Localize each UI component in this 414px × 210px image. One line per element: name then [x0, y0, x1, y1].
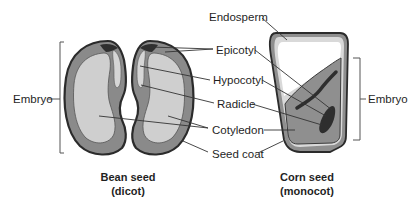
- label-radicle: Radicle: [217, 98, 255, 110]
- bean-right-cotyledon: [143, 53, 185, 143]
- label-seed-coat: Seed coat: [212, 148, 265, 160]
- leader-seed-coat-corn: [258, 141, 283, 153]
- center-labels: Endosperm Epicotyl Hypocotyl Radicle Cot…: [209, 11, 268, 160]
- right-embryo-bracket: [353, 58, 360, 140]
- bean-left-cotyledon: [74, 53, 116, 143]
- label-endosperm: Endosperm: [209, 11, 268, 23]
- left-embryo-label: Embryo: [13, 93, 53, 105]
- corn-caption-subtitle: (monocot): [280, 185, 334, 197]
- bean-right-half: [132, 41, 193, 155]
- right-embryo-label: Embryo: [368, 93, 408, 105]
- label-hypocotyl: Hypocotyl: [213, 74, 264, 86]
- label-epicotyl: Epicotyl: [216, 44, 256, 56]
- bean-left-half: [65, 41, 126, 155]
- label-cotyledon: Cotyledon: [212, 124, 264, 136]
- corn-seed-illustration: Embryo Corn seed (monocot): [270, 33, 408, 197]
- seed-comparison-diagram: Embryo Bean seed (dicot) Embryo Corn see…: [0, 0, 414, 210]
- bean-caption-subtitle: (dicot): [111, 185, 145, 197]
- bean-caption-title: Bean seed: [100, 171, 155, 183]
- bean-seed-illustration: Embryo Bean seed (dicot): [13, 41, 193, 197]
- leader-seed-coat-bean: [183, 141, 208, 152]
- corn-caption-title: Corn seed: [280, 171, 334, 183]
